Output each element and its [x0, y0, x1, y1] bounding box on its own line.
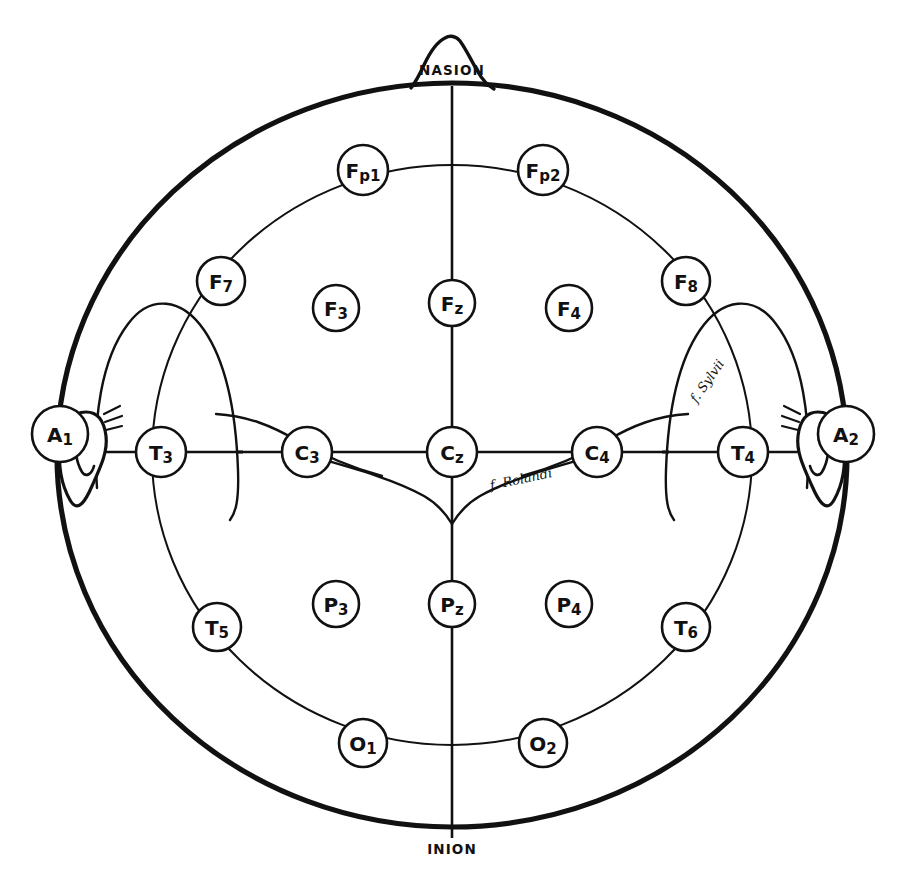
electrode-t4[interactable]: T4 [718, 427, 768, 477]
electrode-p3[interactable]: P3 [313, 581, 359, 627]
sylvian-fissure-label: f. Sylvii [686, 357, 727, 406]
electrode-t5[interactable]: T5 [193, 603, 241, 651]
temporal-lobe-arc-right [666, 304, 808, 520]
electrode-fz[interactable]: Fz [429, 280, 475, 326]
right-ear-tragus-lines [782, 406, 800, 430]
electrode-f8[interactable]: F8 [662, 257, 710, 305]
electrode-t3[interactable]: T3 [136, 427, 186, 477]
electrode-f3[interactable]: F3 [313, 285, 359, 331]
left-ear-group: A1 [32, 406, 122, 506]
head-map-canvas: A1 A2 NASION INION f. Rolandi f. Sylvii … [0, 0, 898, 873]
temporal-lobe-arc-left [96, 304, 238, 520]
electrode-o2[interactable]: O2 [519, 719, 567, 767]
electrode-t6[interactable]: T6 [662, 603, 710, 651]
electrode-cz[interactable]: Cz [427, 427, 477, 477]
electrode-c3[interactable]: C3 [282, 427, 332, 477]
rolandic-fissure-label: f. Rolandi [488, 465, 554, 493]
electrode-c4[interactable]: C4 [572, 427, 622, 477]
electrode-fp2[interactable]: Fp2 [518, 145, 568, 195]
electrode-f7[interactable]: F7 [197, 257, 245, 305]
right-ear-group: A2 [782, 406, 874, 506]
electrode-f4[interactable]: F4 [546, 285, 592, 331]
inion-label: INION [427, 841, 477, 857]
electrode-fp1[interactable]: Fp1 [338, 145, 388, 195]
electrode-pz[interactable]: Pz [429, 581, 475, 627]
nasion-label: NASION [419, 62, 485, 78]
left-ear-tragus-lines [104, 406, 122, 430]
electrode-p4[interactable]: P4 [546, 581, 592, 627]
eeg-1020-diagram: A1 A2 NASION INION f. Rolandi f. Sylvii … [0, 0, 898, 873]
electrode-o1[interactable]: O1 [339, 719, 387, 767]
